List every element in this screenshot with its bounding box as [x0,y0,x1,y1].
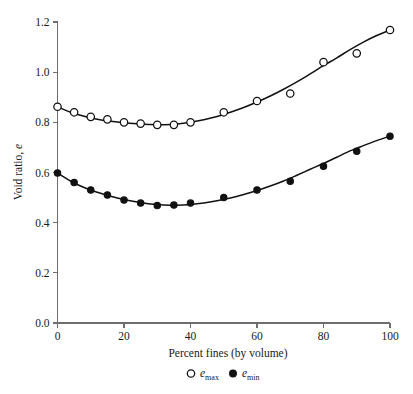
x-tick-label: 0 [55,330,61,342]
y-tick-label: 1.2 [35,16,50,28]
x-axis-label: Percent fines (by volume) [168,347,287,360]
data-point-e_max [87,113,94,120]
x-tick-label: 60 [251,330,263,342]
y-tick-label: 0.2 [35,267,50,279]
y-tick-label: 0.6 [35,167,50,179]
x-tick-label: 20 [118,330,130,342]
data-point-e_max [320,58,327,65]
data-point-e_max [70,109,77,116]
data-point-e_min [88,187,94,193]
legend-marker-e_min [230,370,237,377]
axes [58,22,391,323]
data-point-e_min [187,200,193,206]
data-point-e_min [221,194,227,200]
y-tick-label: 0.4 [35,217,50,229]
data-point-e_max [104,116,111,123]
data-point-e_max [220,109,227,116]
void-ratio-chart: 0.00.20.40.60.81.01.2020406080100 Percen… [0,0,413,394]
data-point-e_max [120,119,127,126]
figure-container: 0.00.20.40.60.81.01.2020406080100 Percen… [0,0,413,394]
data-point-e_max [386,26,393,33]
data-point-e_max [154,121,161,128]
data-point-e_max [353,50,360,57]
chart-legend: emaxemin [187,367,259,382]
data-point-e_min [354,148,360,154]
data-point-e_min [154,202,160,208]
legend-label-e_min: emin [242,367,260,382]
axis-ticks [53,22,390,328]
data-point-e_max [170,121,177,128]
data-point-e_min [54,170,60,176]
x-tick-label: 100 [381,330,399,342]
data-point-e_min [71,179,77,185]
axis-tick-labels: 0.00.20.40.60.81.01.2020406080100 [35,16,399,342]
data-point-e_max [137,120,144,127]
data-point-e_min [287,178,293,184]
legend-marker-e_max [187,370,194,377]
y-tick-label: 1.0 [35,66,50,78]
x-tick-label: 80 [318,330,330,342]
data-point-e_min [121,197,127,203]
data-point-e_max [54,103,61,110]
y-axis-label: Void ratio, e [12,144,25,200]
data-point-e_min [254,187,260,193]
y-tick-label: 0.0 [35,317,50,329]
legend-label-e_max: emax [200,367,219,382]
data-point-e_min [387,133,393,139]
data-point-e_min [320,163,326,169]
data-point-e_max [287,90,294,97]
x-tick-label: 40 [185,330,197,342]
data-point-e_min [104,192,110,198]
data-point-e_max [187,119,194,126]
y-tick-label: 0.8 [35,116,50,128]
data-point-e_max [253,97,260,104]
axis-spines [58,22,391,323]
data-point-e_min [171,202,177,208]
data-point-e_min [137,200,143,206]
